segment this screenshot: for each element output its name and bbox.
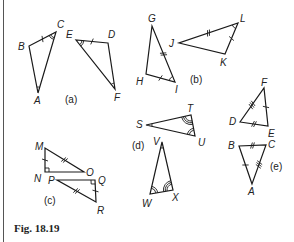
tri-stu-u-angle-arc <box>189 130 194 135</box>
tri-abc-side-bc-tick <box>42 36 43 42</box>
vertex-label-a: A <box>247 186 255 197</box>
tri-vwx-w-angle-arc <box>151 188 156 193</box>
tri-abc-c-angle-arc <box>51 35 55 38</box>
vertex-label-r: R <box>97 205 104 216</box>
part-label-e: (e) <box>270 161 282 172</box>
vertex-label-u: U <box>198 137 206 148</box>
triangle-ghi-1 <box>146 26 175 82</box>
triangle-mno-2 <box>42 148 84 172</box>
tri-jkl-l-angle-arc <box>232 25 235 29</box>
triangle-outline <box>150 142 173 194</box>
tri-def-e-angle-arc <box>80 41 82 45</box>
vertex-label-l: L <box>240 13 246 24</box>
triangle-pqr-2 <box>57 180 99 202</box>
tri-ghi-i-angle-arc <box>169 76 173 80</box>
triangle-outline <box>57 180 96 202</box>
vertex-label-c: C <box>57 19 65 30</box>
triangle-outline <box>179 23 238 54</box>
vertex-label-f: F <box>114 92 121 103</box>
vertex-label-f: F <box>261 77 268 88</box>
triangle-abc-4 <box>239 142 266 184</box>
triangle-abc-0 <box>29 32 56 93</box>
triangle-outline <box>146 26 175 82</box>
figure-caption: Fig. 18.19 <box>14 222 60 234</box>
part-label-c: (c) <box>44 195 56 206</box>
triangle-stu-3 <box>146 115 195 136</box>
vertex-label-x: X <box>171 192 179 203</box>
vertex-label-e: E <box>268 128 275 139</box>
congruent-triangles-figure: (a) (b) (c) (d) (e) Fig. 18.19 ABCDEFGHI… <box>0 0 294 242</box>
vertex-label-n: N <box>34 173 42 184</box>
vertex-label-d: D <box>229 116 236 127</box>
vertex-label-j: J <box>168 38 175 49</box>
vertex-label-m: M <box>35 141 44 152</box>
triangle-def-0 <box>76 39 115 89</box>
triangles-layer <box>29 23 269 202</box>
triangle-outline <box>45 148 84 172</box>
triangle-def-4 <box>240 88 269 127</box>
part-label-b: (b) <box>190 74 202 85</box>
vertex-label-h: H <box>136 76 144 87</box>
vertex-label-a: A <box>33 95 41 106</box>
vertex-label-o: O <box>86 167 94 178</box>
part-label-a: (a) <box>65 94 77 105</box>
vertex-label-t: T <box>187 103 194 114</box>
vertex-label-v: V <box>153 136 161 147</box>
vertex-label-i: I <box>175 84 178 95</box>
part-label-d: (d) <box>132 140 144 151</box>
vertex-label-k: K <box>220 57 228 68</box>
vertex-label-w: W <box>142 198 153 209</box>
labels-layer: (a) (b) (c) (d) (e) Fig. 18.19 ABCDEFGHI… <box>14 13 282 234</box>
vertex-label-b: B <box>18 41 25 52</box>
vertex-label-g: G <box>148 13 156 24</box>
vertex-label-q: Q <box>98 175 106 186</box>
triangle-jkl-1 <box>179 23 238 54</box>
vertex-label-d: D <box>108 29 115 40</box>
vertex-label-s: S <box>136 119 143 130</box>
vertex-label-b: B <box>228 140 235 151</box>
vertex-label-c: C <box>268 139 276 150</box>
triangle-vwx-3 <box>150 142 173 194</box>
vertex-label-e: E <box>66 29 73 40</box>
vertex-label-p: P <box>48 175 55 186</box>
triangle-outline <box>76 40 115 89</box>
